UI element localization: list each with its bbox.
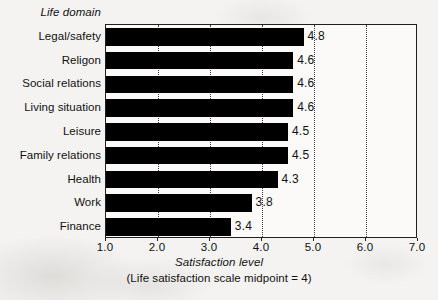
- bar-row: [106, 168, 416, 192]
- bar: [106, 99, 293, 117]
- x-tick-label: 5.0: [305, 241, 322, 253]
- category-axis-title: Life domain: [0, 6, 101, 18]
- bar-row: [106, 215, 416, 239]
- category-label: Finance: [0, 220, 101, 232]
- value-label: 3.8: [256, 196, 273, 208]
- value-label: 4.6: [297, 101, 314, 113]
- value-label: 4.8: [308, 30, 325, 42]
- category-label: Family relations: [0, 149, 101, 161]
- chart-caption: (Life satisfaction scale midpoint = 4): [0, 272, 438, 284]
- category-label: Religon: [0, 54, 101, 66]
- value-label: 4.3: [282, 173, 299, 185]
- bar-row: [106, 25, 416, 49]
- x-tick-label: 6.0: [357, 241, 374, 253]
- category-label: Social relations: [0, 77, 101, 89]
- bar: [106, 76, 293, 94]
- value-label: 4.5: [292, 149, 309, 161]
- bar: [106, 171, 278, 189]
- x-tick-label: 2.0: [149, 241, 166, 253]
- category-label: Living situation: [0, 101, 101, 113]
- bar: [106, 123, 288, 141]
- bar: [106, 218, 231, 236]
- value-label: 4.6: [297, 77, 314, 89]
- bar: [106, 194, 252, 212]
- bar: [106, 28, 304, 46]
- category-label: Leisure: [0, 125, 101, 137]
- bar-row: [106, 96, 416, 120]
- category-label: Health: [0, 173, 101, 185]
- category-label: Legal/safety: [0, 30, 101, 42]
- x-tick-label: 3.0: [201, 241, 218, 253]
- value-label: 4.5: [292, 125, 309, 137]
- category-label: Work: [0, 196, 101, 208]
- x-axis-title: Satisfaction level: [0, 256, 438, 268]
- bar-row: [106, 73, 416, 97]
- bar-row: [106, 120, 416, 144]
- x-tick-label: 7.0: [409, 241, 426, 253]
- bar-row: [106, 49, 416, 73]
- x-tick-label: 1.0: [97, 241, 114, 253]
- bar: [106, 147, 288, 165]
- bar-chart: Life domain Legal/safetyReligonSocial re…: [0, 0, 438, 300]
- value-label: 4.6: [297, 54, 314, 66]
- value-label: 3.4: [235, 220, 252, 232]
- bar: [106, 52, 293, 70]
- bar-row: [106, 144, 416, 168]
- x-tick-label: 4.0: [253, 241, 270, 253]
